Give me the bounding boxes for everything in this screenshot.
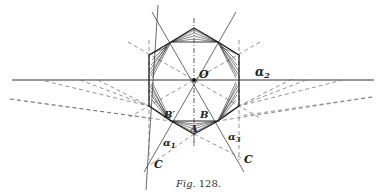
figure-caption: Fig.128. <box>175 178 221 189</box>
label-C-left: C <box>154 158 163 171</box>
label-B-prime: B′ <box>163 109 175 120</box>
geometric-figure-128: O α2 B′ B A α1 α3 C C Fig.128. <box>0 0 381 193</box>
label-A: A <box>189 123 198 134</box>
label-C-right: C <box>244 153 253 166</box>
label-alpha1: α1 <box>163 137 176 150</box>
line-left-slant <box>152 12 244 172</box>
label-O: O <box>199 68 209 81</box>
label-B: B <box>199 109 208 120</box>
center-point-O <box>192 78 196 82</box>
dashed-construction-lines <box>10 40 372 165</box>
label-alpha2: α2 <box>255 65 270 80</box>
